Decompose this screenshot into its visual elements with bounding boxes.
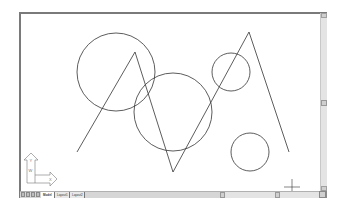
horizontal-scroll-thumb[interactable]	[275, 192, 280, 198]
scroll-up-button[interactable]	[321, 13, 327, 18]
circle-1[interactable]	[77, 33, 155, 111]
prev-tab-button[interactable]	[26, 192, 30, 197]
vertical-scroll-thumb[interactable]	[321, 100, 327, 106]
next-tab-button[interactable]	[31, 192, 35, 197]
horizontal-scrollbar[interactable]	[220, 192, 320, 198]
tab-model[interactable]: Model	[41, 192, 55, 198]
ucs-icon: Y W X	[24, 153, 57, 186]
tab-layout2[interactable]: Layout2	[70, 192, 85, 198]
vertical-scrollbar[interactable]	[320, 13, 327, 191]
scroll-left-button[interactable]	[220, 192, 225, 198]
last-tab-button[interactable]	[36, 192, 40, 197]
zigzag-polyline[interactable]	[77, 32, 289, 172]
ucs-w-label: W	[29, 168, 33, 173]
drawing-canvas[interactable]: Y W X	[0, 0, 342, 207]
scroll-corner	[319, 191, 326, 198]
circle-3[interactable]	[212, 53, 250, 91]
layout-tab-bar: Model Layout1 Layout2	[20, 191, 326, 198]
circle-4[interactable]	[231, 133, 269, 171]
first-tab-button[interactable]	[21, 192, 25, 197]
ucs-x-label: X	[49, 177, 52, 182]
tab-layout1[interactable]: Layout1	[55, 192, 70, 198]
ucs-y-label: Y	[30, 158, 33, 163]
